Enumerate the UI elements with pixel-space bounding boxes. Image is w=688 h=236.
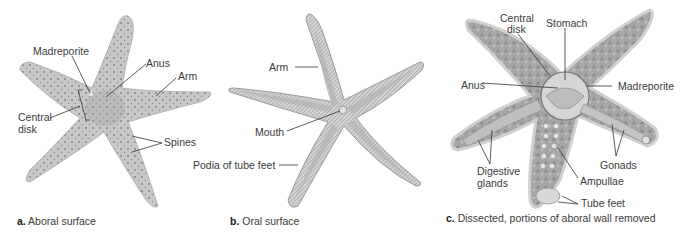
starfish-dissected-illustration <box>440 0 688 236</box>
label-digestive-glands-1: Digestive <box>477 166 520 177</box>
caption-a: a. Aboral surface <box>17 215 96 227</box>
tube-feet-tip <box>536 188 560 204</box>
caption-a-letter: a. <box>17 215 26 227</box>
starfish-oral-illustration <box>220 0 450 236</box>
label-gonads: Gonads <box>600 160 637 171</box>
label-anus: Anus <box>146 58 170 69</box>
label-madreporite-c: Madreporite <box>618 81 674 92</box>
label-central-disk-c-2: disk <box>507 24 526 35</box>
caption-c-text: Dissected, portions of aboral wall remov… <box>458 212 656 224</box>
label-digestive-glands-2: glands <box>477 178 508 189</box>
label-arm-oral: Arm <box>269 62 288 73</box>
label-central-disk-2: disk <box>18 124 37 135</box>
panel-dissected: Central disk Stomach Anus Madreporite Di… <box>440 0 688 236</box>
panel-oral-surface: Arm Mouth Podia of tube feet b. Oral sur… <box>220 0 450 236</box>
label-podia-tube-feet: Podia of tube feet <box>193 160 275 171</box>
caption-b-text: Oral surface <box>242 215 299 227</box>
label-mouth: Mouth <box>255 127 284 138</box>
caption-a-text: Aboral surface <box>28 215 96 227</box>
label-spines: Spines <box>164 137 196 148</box>
panel-aboral-surface: Madreporite Anus Arm Central disk Spines… <box>0 0 230 236</box>
label-tube-feet: Tube feet <box>581 198 625 209</box>
caption-c-letter: c. <box>446 212 455 224</box>
label-ampullae: Ampullae <box>580 176 624 187</box>
label-arm: Arm <box>178 71 197 82</box>
label-madreporite: Madreporite <box>33 46 89 57</box>
label-stomach: Stomach <box>546 18 587 29</box>
label-central-disk-1: Central <box>18 112 52 123</box>
label-anus-c: Anus <box>461 80 485 91</box>
caption-b-letter: b. <box>230 215 239 227</box>
mouth-spot <box>339 106 347 114</box>
caption-c: c. Dissected, portions of aboral wall re… <box>446 212 656 224</box>
caption-b: b. Oral surface <box>230 215 299 227</box>
